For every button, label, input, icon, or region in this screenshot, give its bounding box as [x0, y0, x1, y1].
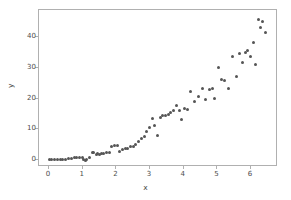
- y-axis-label: y: [6, 84, 15, 88]
- x-axis-tick-label: 0: [46, 170, 50, 179]
- data-point: [227, 87, 230, 90]
- data-point: [241, 61, 244, 64]
- x-axis-label: x: [0, 183, 291, 192]
- data-point: [259, 26, 262, 29]
- data-point: [148, 126, 151, 129]
- x-axis-tick-label: 3: [147, 170, 151, 179]
- data-point: [143, 135, 146, 138]
- x-axis-tick: [216, 166, 217, 169]
- data-point: [261, 20, 264, 23]
- y-axis-tick-label: 20: [27, 93, 36, 102]
- data-point: [213, 97, 216, 100]
- y-axis-tick-label: 30: [27, 62, 36, 71]
- data-point: [193, 100, 196, 103]
- data-point: [235, 75, 238, 78]
- data-point: [264, 31, 267, 34]
- data-point: [153, 124, 156, 127]
- data-point: [175, 104, 178, 107]
- data-point: [118, 150, 121, 153]
- x-axis-tick-label: 1: [80, 170, 84, 179]
- data-point: [204, 98, 207, 101]
- x-axis-tick-label: 4: [181, 170, 185, 179]
- x-axis-tick: [250, 166, 251, 169]
- x-axis-tick-label: 5: [214, 170, 218, 179]
- x-axis-tick: [48, 166, 49, 169]
- data-point: [108, 151, 111, 154]
- data-point: [254, 63, 257, 66]
- x-axis-tick: [149, 166, 150, 169]
- data-point: [189, 90, 192, 93]
- data-point: [249, 55, 252, 58]
- data-point: [231, 55, 234, 58]
- data-point: [197, 95, 200, 98]
- y-axis-tick-label: 0: [32, 155, 36, 164]
- y-axis-tick-label: 40: [27, 32, 36, 41]
- data-point: [116, 144, 119, 147]
- x-axis-tick: [82, 166, 83, 169]
- data-point: [186, 108, 189, 111]
- y-axis-tick-label: 10: [27, 124, 36, 133]
- data-point: [88, 156, 91, 159]
- data-point: [140, 137, 143, 140]
- x-axis-tick-label: 6: [248, 170, 252, 179]
- data-point: [238, 52, 241, 55]
- plot-data-area: [39, 10, 276, 165]
- data-point: [201, 87, 204, 90]
- plot-axes: [38, 9, 277, 166]
- data-point: [178, 109, 181, 112]
- x-axis-tick-label: 2: [113, 170, 117, 179]
- data-point: [151, 117, 154, 120]
- data-point: [211, 87, 214, 90]
- scatter-plot-figure: 0123456010203040 x y: [0, 0, 291, 200]
- x-axis-tick: [115, 166, 116, 169]
- data-point: [156, 134, 159, 137]
- data-point: [252, 41, 255, 44]
- data-point: [180, 118, 183, 121]
- data-point: [223, 79, 226, 82]
- data-point: [134, 143, 137, 146]
- data-point: [246, 49, 249, 52]
- data-point: [172, 109, 175, 112]
- data-point: [217, 66, 220, 69]
- data-point: [137, 140, 140, 143]
- data-point: [145, 130, 148, 133]
- x-axis-tick: [183, 166, 184, 169]
- data-point: [257, 18, 260, 21]
